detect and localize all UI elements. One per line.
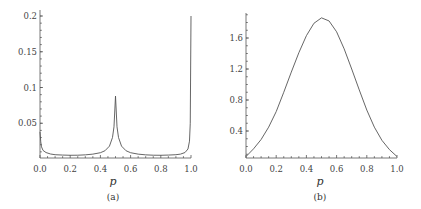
y-tick-label: 0.2 — [23, 11, 37, 21]
x-tick-label: 0.0 — [33, 164, 47, 174]
panel-caption: (b) — [314, 192, 327, 202]
x-tick-label: 0.2 — [63, 164, 77, 174]
y-tick-label: 0.15 — [18, 47, 37, 57]
y-tick-label: 0.1 — [23, 83, 37, 93]
chart-a: 0.00.20.40.60.81.00.050.10.150.2p(a) — [18, 10, 198, 202]
y-tick-label: 1.6 — [229, 33, 243, 43]
x-axis-label: p — [316, 175, 323, 188]
x-tick-label: 0.2 — [269, 164, 283, 174]
x-tick-label: 0.4 — [94, 164, 108, 174]
y-tick-label: 0.05 — [18, 118, 37, 128]
x-tick-label: 0.6 — [330, 164, 344, 174]
x-axis-label: p — [109, 175, 116, 188]
panel-caption: (a) — [107, 192, 119, 202]
x-tick-label: 1.0 — [390, 164, 404, 174]
data-curve — [40, 16, 191, 155]
figure: 0.00.20.40.60.81.00.050.10.150.2p(a) 0.0… — [0, 0, 421, 209]
chart-b: 0.00.20.40.60.81.00.40.81.21.6p(b) — [229, 13, 403, 202]
x-tick-label: 1.0 — [184, 164, 198, 174]
x-tick-label: 0.4 — [300, 164, 314, 174]
y-tick-label: 0.8 — [229, 95, 243, 105]
y-tick-label: 1.2 — [229, 64, 243, 74]
x-tick-label: 0.8 — [360, 164, 374, 174]
data-curve — [246, 18, 397, 157]
y-tick-label: 0.4 — [229, 126, 243, 136]
x-tick-label: 0.8 — [154, 164, 168, 174]
x-tick-label: 0.0 — [239, 164, 253, 174]
x-tick-label: 0.6 — [124, 164, 138, 174]
